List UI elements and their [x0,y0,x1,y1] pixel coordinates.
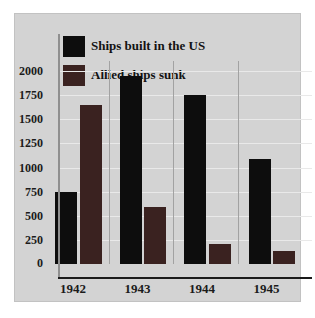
y-tick-label: 750 [5,186,43,198]
gridline-2000 [58,71,312,72]
x-axis-line [58,277,312,279]
y-axis-line [58,34,60,279]
bar-sunk-1942 [80,105,102,264]
y-tick-label: 250 [5,234,43,246]
y-tick-label: 2000 [5,65,43,77]
group-separator [238,61,239,264]
y-tick-label: 1500 [5,113,43,125]
y-tick-label: 500 [5,210,43,222]
bar-built-1945 [249,159,271,264]
y-tick-label: 0 [5,257,43,269]
x-tick-label: 1942 [43,281,103,297]
x-tick-label: 1945 [237,281,297,297]
y-tick-label: 1000 [5,162,43,174]
legend-item-built: Ships built in the US [63,35,205,57]
legend-swatch-sunk [63,65,85,86]
bar-built-1943 [120,76,142,264]
y-tick-label: 1250 [5,137,43,149]
chart-image: Ships built in the US Allied ships sunk … [0,0,315,318]
bar-sunk-1944 [209,244,231,264]
group-separator [173,61,174,264]
y-tick-label: 1750 [5,89,43,101]
x-tick-label: 1943 [108,281,168,297]
bar-sunk-1943 [144,207,166,264]
group-separator [109,61,110,264]
chart-panel: Ships built in the US Allied ships sunk … [14,13,301,302]
x-tick-label: 1944 [172,281,232,297]
bar-sunk-1945 [273,251,295,264]
bar-built-1944 [184,95,206,264]
legend-label-built: Ships built in the US [91,38,205,54]
legend-swatch-built [63,36,85,57]
